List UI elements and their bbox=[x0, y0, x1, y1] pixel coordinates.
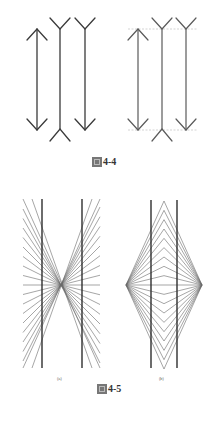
wundt-parallels bbox=[151, 200, 177, 368]
figure-4-5-number: 4-5 bbox=[108, 383, 121, 394]
wundt-rays bbox=[126, 201, 202, 369]
caption-char-glyph bbox=[97, 384, 107, 394]
subfigure-a-label: (a) bbox=[57, 376, 62, 381]
figure-4-5-drawing bbox=[0, 0, 219, 421]
figure-4-5-caption: 4-5 bbox=[97, 383, 121, 394]
subfigure-b-label: (b) bbox=[159, 376, 164, 381]
hering-rays bbox=[23, 199, 100, 368]
